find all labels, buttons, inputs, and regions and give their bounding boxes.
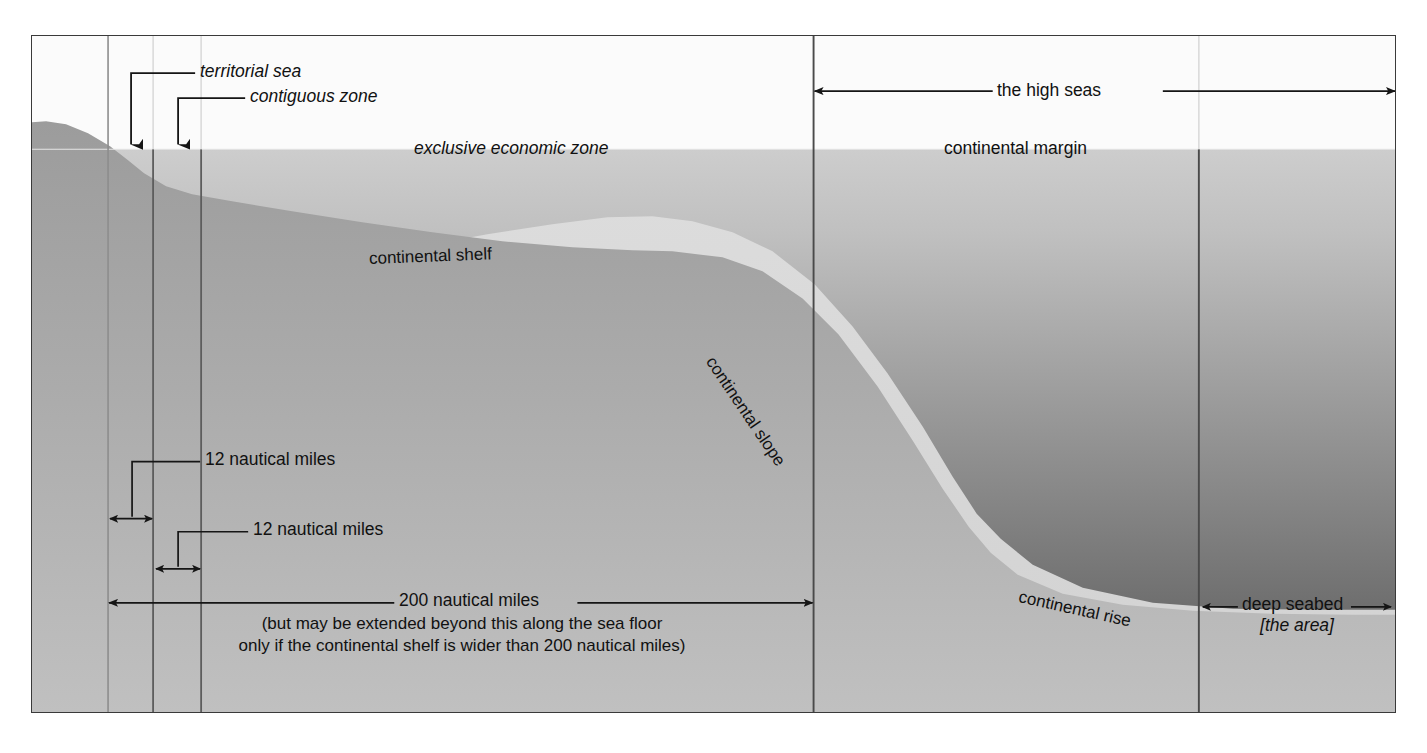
two-hundred-nm-note-line1: (but may be extended beyond this along t…: [147, 614, 777, 633]
two-hundred-nm-note-line2: only if the continental shelf is wider t…: [127, 636, 797, 655]
deep-seabed-label: deep seabed: [1242, 595, 1343, 615]
diagram-stage: territorial sea contiguous zone exclusiv…: [0, 0, 1427, 753]
high-seas-label: the high seas: [997, 81, 1101, 101]
territorial-sea-label: territorial sea: [200, 62, 301, 82]
territorial-sea-leader: [131, 73, 195, 144]
twelve-nm-first-leader: [132, 462, 200, 517]
two-hundred-nm-label: 200 nautical miles: [399, 591, 539, 611]
twelve-nm-second-label: 12 nautical miles: [253, 520, 383, 540]
twelve-nm-second-leader: [178, 532, 248, 567]
continental-margin-label: continental margin: [944, 139, 1087, 159]
exclusive-economic-zone-label: exclusive economic zone: [414, 139, 609, 159]
contiguous-zone-leader: [178, 98, 245, 144]
the-area-label: [the area]: [1202, 616, 1392, 636]
contiguous-zone-label: contiguous zone: [250, 87, 377, 107]
maritime-zones-figure: territorial sea contiguous zone exclusiv…: [31, 35, 1396, 713]
twelve-nm-first-label: 12 nautical miles: [205, 450, 335, 470]
